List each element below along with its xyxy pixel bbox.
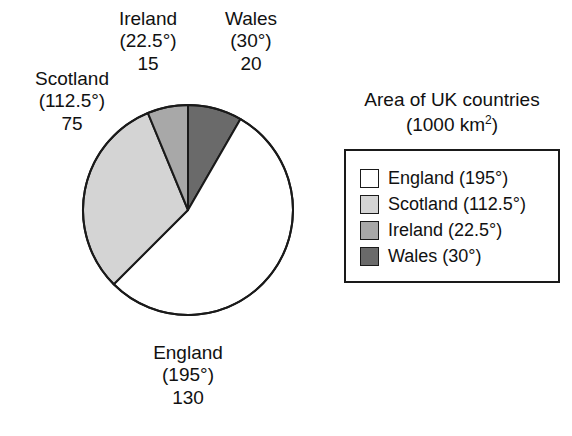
legend-units-exponent: 2 [485, 113, 492, 127]
legend-title-line2: (1000 km2) [344, 113, 560, 138]
callout-england-name: England [118, 342, 258, 364]
legend-title: Area of UK countries (1000 km2) [344, 88, 560, 137]
callout-wales: Wales (30°) 20 [196, 8, 306, 75]
callout-england-value: 130 [118, 387, 258, 409]
legend-title-line1: Area of UK countries [344, 88, 560, 113]
pie-svg [78, 100, 298, 320]
legend-label-ireland: Ireland (22.5°) [388, 220, 502, 241]
legend-item-england[interactable]: England (195°) [360, 165, 546, 191]
legend-box: England (195°) Scotland (112.5°) Ireland… [344, 149, 560, 283]
callout-ireland-name: Ireland [88, 8, 208, 30]
callout-wales-angle: (30°) [196, 30, 306, 52]
legend-swatch-scotland [360, 195, 379, 214]
callout-england: England (195°) 130 [118, 342, 258, 409]
pie-slices [83, 105, 293, 315]
callout-wales-name: Wales [196, 8, 306, 30]
pie-chart-figure: Ireland (22.5°) 15 Wales (30°) 20 Scotla… [0, 0, 572, 436]
legend-label-scotland: Scotland (112.5°) [388, 194, 526, 215]
pie-graphic [78, 100, 298, 320]
legend-swatch-england [360, 169, 379, 188]
legend-units-suffix: ) [492, 114, 498, 135]
callout-wales-value: 20 [196, 53, 306, 75]
legend-item-ireland[interactable]: Ireland (22.5°) [360, 217, 546, 243]
legend-swatch-ireland [360, 221, 379, 240]
legend: Area of UK countries (1000 km2) England … [344, 88, 560, 283]
legend-item-scotland[interactable]: Scotland (112.5°) [360, 191, 546, 217]
legend-item-wales[interactable]: Wales (30°) [360, 243, 546, 269]
legend-label-england: England (195°) [388, 168, 508, 189]
callout-ireland: Ireland (22.5°) 15 [88, 8, 208, 75]
legend-label-wales: Wales (30°) [388, 246, 482, 267]
legend-units-prefix: (1000 km [406, 114, 485, 135]
callout-england-angle: (195°) [118, 364, 258, 386]
legend-swatch-wales [360, 247, 379, 266]
callout-ireland-angle: (22.5°) [88, 30, 208, 52]
callout-scotland-name: Scotland [8, 68, 136, 90]
